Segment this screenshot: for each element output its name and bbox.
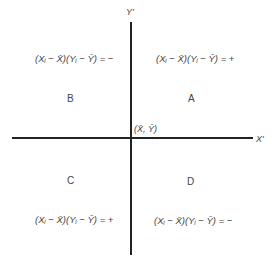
quadrant-d-label: D bbox=[187, 176, 194, 187]
quadrant-b-label: B bbox=[67, 93, 74, 104]
quadrant-b-expression: (Xᵢ − X̄)(Yᵢ − Ȳ) = − bbox=[35, 53, 113, 64]
quadrant-c-expression: (Xᵢ − X̄)(Yᵢ − Ȳ) = + bbox=[35, 214, 113, 225]
y-axis-label: Y' bbox=[126, 7, 134, 17]
quadrant-a-label: A bbox=[188, 93, 195, 104]
origin-label: (X̄, Ȳ) bbox=[134, 124, 157, 134]
x-axis-line bbox=[12, 137, 253, 139]
quadrant-a-expression: (Xᵢ − X̄)(Yᵢ − Ȳ) = + bbox=[156, 53, 234, 64]
x-axis-label: X' bbox=[256, 134, 264, 144]
quadrant-d-expression: (Xᵢ − X̄)(Yᵢ − Ȳ) = − bbox=[154, 215, 232, 226]
quadrant-c-label: C bbox=[67, 175, 74, 186]
